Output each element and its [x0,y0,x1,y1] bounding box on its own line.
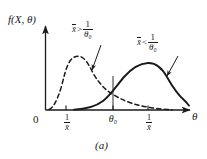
fraction-numerator: 1 [83,20,93,29]
fraction-numerator: 1 [64,113,71,122]
tick-label-one-over-xbar-right: 1 x̄ [140,113,158,133]
tick-label-one-over-xbar-left: 1 x̄ [58,113,76,133]
figure-container: f(X, θ) θ 0 1 x̄ θ₀ 1 x̄ x̄> 1 θ₀ x̄< 1 … [0,0,207,159]
annotation-xbar-greater: x̄> 1 θ₀ [72,20,93,40]
annotation-fraction: 1 θ₀ [148,33,158,53]
figure-caption: (a) [95,140,108,151]
fraction-numerator: 1 [148,33,158,42]
tick-label-theta-zero: θ₀ [104,114,122,124]
fraction-numerator: 1 [146,113,153,122]
fraction-denominator: x̄ [64,122,71,132]
annotation-lhs: x̄ [137,38,141,47]
right-annotation-leader-line [167,56,178,76]
annotation-operator: > [76,24,83,34]
left-annotation-leader-line [92,45,101,70]
annotation-operator: < [141,37,148,47]
annotation-fraction: 1 θ₀ [83,20,93,40]
annotation-xbar-less: x̄< 1 θ₀ [137,33,158,53]
x-axis-label: θ [192,111,197,122]
fraction-one-over-xbar-right: 1 x̄ [146,113,153,133]
fraction-denominator: x̄ [146,122,153,132]
y-axis-label: f(X, θ) [8,14,36,25]
fraction-denominator: θ₀ [83,29,93,39]
fraction-one-over-xbar-left: 1 x̄ [64,113,71,133]
annotation-lhs: x̄ [72,25,76,34]
origin-label: 0 [33,114,39,125]
fraction-denominator: θ₀ [148,42,158,52]
